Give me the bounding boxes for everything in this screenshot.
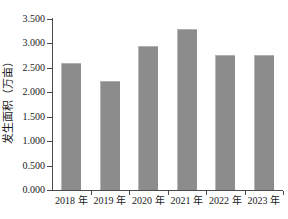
x-axis-tick-label: 2019 年 — [91, 196, 130, 206]
x-axis-tick — [245, 191, 246, 195]
bar — [138, 46, 158, 190]
bar — [61, 63, 81, 190]
x-axis-tick — [206, 191, 207, 195]
x-axis-tick-label: 2020 年 — [129, 196, 168, 206]
bar — [177, 29, 197, 190]
x-axis-tick — [129, 191, 130, 195]
y-axis-tick-label: 1.500 — [3, 112, 45, 122]
plot-area — [52, 19, 280, 190]
y-axis-tick-label: 0.000 — [3, 185, 45, 195]
bar — [254, 55, 274, 190]
y-axis-tick-label: 1.000 — [3, 136, 45, 146]
x-axis-tick — [91, 191, 92, 195]
x-axis-tick — [283, 191, 284, 195]
x-axis-tick-label: 2022 年 — [206, 196, 245, 206]
x-axis-tick-label: 2023 年 — [245, 196, 284, 206]
y-axis-tick-label: 3.500 — [3, 14, 45, 24]
y-axis-tick-label: 3.000 — [3, 38, 45, 48]
x-axis-tick-label: 2018 年 — [52, 196, 91, 206]
bar — [215, 55, 235, 190]
y-axis-tick-label: 2.000 — [3, 87, 45, 97]
bar-chart: 发生面积（万亩） 3.5003.0002.5002.0001.5001.0000… — [0, 0, 288, 219]
bar — [100, 81, 120, 190]
y-axis-tick — [47, 190, 52, 191]
x-axis-tick-label: 2021 年 — [168, 196, 207, 206]
y-axis-tick-label: 0.500 — [3, 161, 45, 171]
x-axis-tick — [168, 191, 169, 195]
y-axis-tick-label: 2.500 — [3, 63, 45, 73]
